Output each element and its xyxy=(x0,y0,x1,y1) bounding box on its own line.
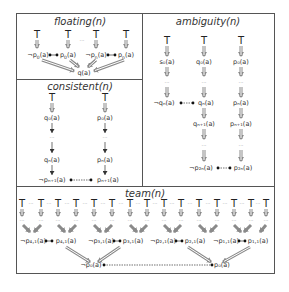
pn-label: pₙ(a) xyxy=(97,156,113,164)
double-arrows xyxy=(204,129,241,139)
outer-frame xyxy=(17,14,275,274)
double-arrows xyxy=(167,46,241,56)
neg-p11-label: ¬p₁,₁(a) xyxy=(213,237,239,245)
p11-label: p₁,₁(a) xyxy=(248,237,268,245)
svg-text:···: ··· xyxy=(179,217,184,223)
top-symbol: T xyxy=(48,92,56,103)
consistent-panel: consistent(n) T T q₀(a) p₀(a) ··· ··· qₙ… xyxy=(38,81,119,184)
top-symbol: T xyxy=(18,198,26,209)
top-symbol: T xyxy=(33,29,41,40)
consistent-title: consistent(n) xyxy=(47,81,113,92)
svg-text:···: ··· xyxy=(128,217,133,223)
pn1-label: pₙ₊₁(a) xyxy=(230,120,252,128)
qn-label: qₙ(a) xyxy=(44,156,60,164)
neg-p21-label: ¬p₂,₁(a) xyxy=(150,237,176,245)
svg-text:···: ··· xyxy=(29,200,34,206)
top-symbol: T xyxy=(237,35,245,46)
neg-p0-label: ¬p₀(a) xyxy=(80,261,101,269)
q-target-label: q(a) xyxy=(77,69,90,77)
svg-text:···: ··· xyxy=(110,217,115,223)
ellipsis: ··· xyxy=(202,79,207,85)
pn1-label: pₙ₊₁(a) xyxy=(97,176,119,184)
svg-text:···: ··· xyxy=(256,200,261,206)
p2n-label: p₂ₙ(a) xyxy=(234,164,252,172)
p0-label: p0(a) xyxy=(60,51,76,60)
top-symbol: T xyxy=(54,198,62,209)
neg-p0-label: ¬p0(a) xyxy=(27,51,49,60)
svg-text:···: ··· xyxy=(83,200,88,206)
team-panel: team(n) T T T T T T T T T T T T T T T ··… xyxy=(18,188,270,269)
double-arrows xyxy=(204,108,241,118)
double-arrows xyxy=(167,87,241,97)
top-symbol: T xyxy=(143,198,151,209)
svg-text:···: ··· xyxy=(223,200,228,206)
ellipsis: ··· xyxy=(165,79,170,85)
p21-label: p₂,₁(a) xyxy=(185,237,205,245)
top-symbol: T xyxy=(101,92,109,103)
panel-frames xyxy=(17,14,275,274)
ellipsis: ··· xyxy=(239,79,244,85)
top-symbol: T xyxy=(177,198,185,209)
top-symbol: T xyxy=(262,198,270,209)
svg-text:···: ··· xyxy=(170,200,175,206)
ellipsis: ··· xyxy=(239,142,244,148)
ellipsis: ··· xyxy=(80,37,85,43)
double-arrows xyxy=(204,150,241,161)
neg-pn1-label: ¬pₙ₊₁(a) xyxy=(38,176,65,184)
svg-text:···: ··· xyxy=(136,200,141,206)
p0-label: p₀(a) xyxy=(233,58,249,66)
top-symbol: T xyxy=(92,29,100,40)
svg-text:···: ··· xyxy=(153,200,158,206)
svg-text:···: ··· xyxy=(188,200,193,206)
neg-p2n-label: ¬p₂ₙ(a) xyxy=(189,164,213,172)
svg-text:···: ··· xyxy=(240,200,245,206)
top-symbol: T xyxy=(160,198,168,209)
top-symbol: T xyxy=(247,198,255,209)
svg-text:···: ··· xyxy=(47,200,52,206)
neg-p31-label: ¬p₃,₁(a) xyxy=(88,237,114,245)
qn1-label: qₙ₊₁(a) xyxy=(193,120,215,128)
svg-text:···: ··· xyxy=(145,217,150,223)
p0-label: p₀(a) xyxy=(214,261,230,269)
ellipsis: ··· xyxy=(202,142,207,148)
svg-text:···: ··· xyxy=(101,200,106,206)
svg-text:···: ··· xyxy=(162,217,167,223)
double-arrows xyxy=(167,67,241,76)
svg-text:···: ··· xyxy=(92,217,97,223)
svg-text:···: ··· xyxy=(119,200,124,206)
team-diagonal-arrows xyxy=(23,225,266,232)
q0-label: q₀(a) xyxy=(196,58,212,66)
s0-label: s₀(a) xyxy=(159,58,174,66)
top-symbol: T xyxy=(90,198,98,209)
top-symbol: T xyxy=(163,35,171,46)
svg-text:···: ··· xyxy=(56,217,61,223)
q0-label: q₀(a) xyxy=(44,114,60,122)
top-symbol: T xyxy=(126,198,134,209)
svg-text:···: ··· xyxy=(74,217,79,223)
neg-qn-label: ¬qₙ(a) xyxy=(153,99,174,107)
p31-label: p₃,₁(a) xyxy=(123,237,143,245)
top-symbol: T xyxy=(195,198,203,209)
svg-text:···: ··· xyxy=(65,200,70,206)
svg-text:···: ··· xyxy=(264,217,269,223)
svg-text:···: ··· xyxy=(206,200,211,206)
p41-label: p₄,₁(a) xyxy=(56,237,76,245)
team-bottom-arrows xyxy=(66,247,250,262)
floating-title: floating(n) xyxy=(54,16,106,27)
svg-text:···: ··· xyxy=(197,217,202,223)
floating-panel: floating(n) T T T T ··· ¬p0(a) p0(a) ¬pn… xyxy=(27,16,134,77)
svg-text:···: ··· xyxy=(232,217,237,223)
ambiguity-title: ambiguity(n) xyxy=(176,16,240,27)
top-symbol: T xyxy=(200,35,208,46)
top-symbol: T xyxy=(108,198,116,209)
svg-text:···: ··· xyxy=(39,217,44,223)
team-down-arrows: ··· ··· ··· ··· ··· ··· ··· ··· ··· ··· … xyxy=(20,209,269,223)
neg-p41-label: ¬p₄,₁(a) xyxy=(20,237,46,245)
diagram-canvas: floating(n) T T T T ··· ¬p0(a) p0(a) ¬pn… xyxy=(0,0,289,292)
neg-pn-label: ¬pn(a) xyxy=(85,51,107,60)
pn-label: pn(a) xyxy=(118,51,134,60)
svg-text:···: ··· xyxy=(215,217,220,223)
svg-text:···: ··· xyxy=(20,217,25,223)
ambiguity-panel: ambiguity(n) T T T s₀(a) q₀(a) p₀(a) ···… xyxy=(153,16,252,172)
top-symbol: T xyxy=(122,29,130,40)
